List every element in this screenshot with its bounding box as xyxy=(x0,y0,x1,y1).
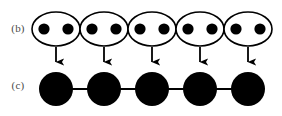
row-b-site-6 xyxy=(158,23,169,34)
row-b-label: (b) xyxy=(11,22,25,35)
row-b-site-10 xyxy=(254,23,265,34)
row-b-site-9 xyxy=(230,23,241,34)
coarse-graining-diagram: (b) (c) xyxy=(0,0,282,116)
row-c-node-4 xyxy=(183,72,217,106)
row-b-site-8 xyxy=(206,23,217,34)
row-c-node-5 xyxy=(231,72,265,106)
row-c-node-1 xyxy=(39,72,73,106)
row-c-label: (c) xyxy=(12,79,25,92)
row-c-node-2 xyxy=(87,72,121,106)
row-b-site-2 xyxy=(62,23,73,34)
row-b-site-7 xyxy=(182,23,193,34)
figure-container: (b) (c) xyxy=(0,0,282,116)
row-b-site-5 xyxy=(134,23,145,34)
row-b-site-3 xyxy=(86,23,97,34)
row-b-site-1 xyxy=(38,23,49,34)
row-b-site-4 xyxy=(110,23,121,34)
row-c-node-3 xyxy=(135,72,169,106)
